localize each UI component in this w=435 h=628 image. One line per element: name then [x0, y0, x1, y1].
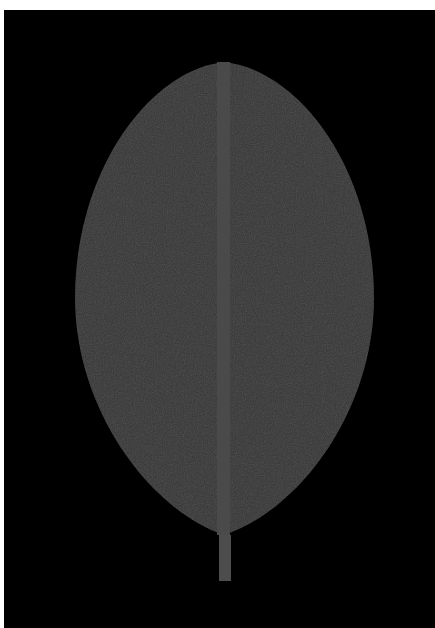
leaf-illustration: [0, 0, 435, 628]
image-frame: [0, 0, 435, 628]
leaf-stem: [219, 535, 231, 581]
leaf-midrib: [217, 62, 230, 535]
